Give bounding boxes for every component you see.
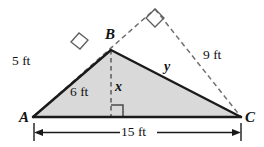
dimension-arrow-right-icon [232, 129, 241, 136]
measurement-label-6ft: 6 ft [70, 85, 88, 99]
measurement-label-y: y [164, 60, 170, 74]
vertex-label-a: A [19, 110, 29, 125]
measurement-label-9ft: 9 ft [203, 48, 221, 62]
vertex-label-c: C [245, 110, 255, 125]
dimension-arrow-left-icon [34, 129, 43, 136]
geometry-figure: A B C 5 ft 6 ft x y 9 ft 15 ft [0, 0, 264, 147]
measurement-label-x: x [115, 80, 122, 94]
right-angle-left-icon [71, 33, 88, 49]
measurement-label-5ft: 5 ft [12, 54, 30, 68]
measurement-label-15ft: 15 ft [121, 125, 146, 139]
vertex-label-b: B [105, 27, 115, 42]
